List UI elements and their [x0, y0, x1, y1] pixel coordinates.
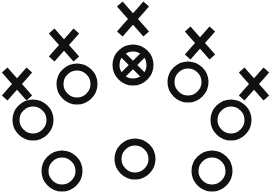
circle-upper-left	[60, 67, 94, 101]
circle-upper-right	[171, 65, 205, 99]
circle-lower-left	[45, 154, 79, 188]
diagram-canvas	[0, 0, 270, 196]
circle-bottom-center	[118, 142, 152, 176]
circle-mid-left	[16, 103, 50, 137]
circle-lower-right	[195, 154, 229, 188]
x-far-right	[242, 70, 267, 98]
x-upper-left	[52, 31, 77, 59]
x-top-center	[120, 4, 146, 34]
crossed-circle-top-center	[116, 48, 150, 82]
x-far-left	[5, 70, 30, 98]
marker-diagram	[0, 0, 270, 196]
circle-mid-right	[214, 103, 248, 137]
crossed-circle-markers-group	[116, 48, 150, 82]
x-upper-right	[188, 29, 213, 57]
